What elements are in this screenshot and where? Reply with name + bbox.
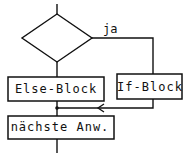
if-block-label: If-Block <box>117 80 183 94</box>
junction-dot <box>55 106 59 110</box>
true-branch-label: ja <box>103 22 117 36</box>
flowchart: ja Else-Block If-Block nächste Anw. <box>0 0 190 158</box>
true-branch-connector <box>92 38 153 74</box>
else-block-label: Else-Block <box>15 82 97 96</box>
next-statement-label: nächste Anw. <box>11 120 110 134</box>
decision-diamond <box>22 14 92 62</box>
